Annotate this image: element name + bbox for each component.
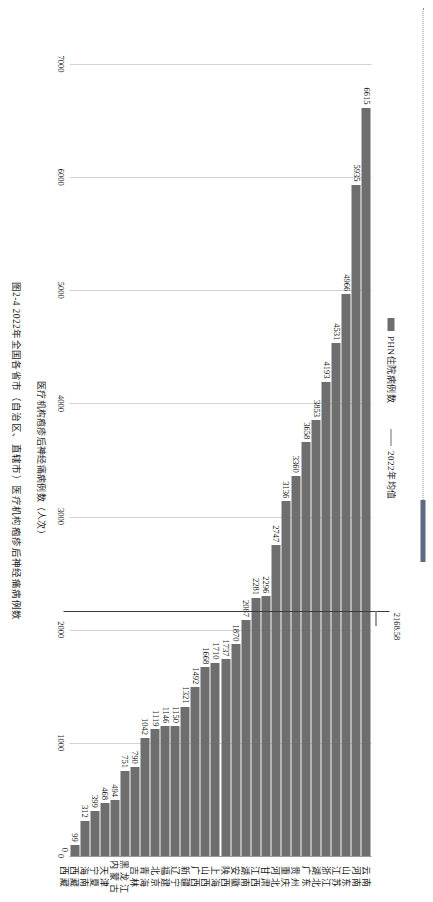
bar-row: 1119 [150, 64, 159, 856]
bar-value-label: 790 [129, 751, 139, 764]
bar [190, 687, 199, 856]
bar-row: 1668 [200, 64, 209, 856]
bar-value-label: 3360 [291, 456, 301, 473]
bar-row: 1870 [231, 64, 240, 856]
bar-row: 1150 [170, 64, 179, 856]
category-axis-labels: 云南河南山东江苏浙江湖北广东贵州重庆河北甘肃江西湖南安徽陕西上海山西广西新疆辽宁… [69, 858, 371, 898]
legend-item-mean: 2022年均值 [384, 429, 397, 500]
bar-value-label: 1668 [200, 647, 210, 664]
bar [321, 382, 330, 856]
value-tick-7000: 7000 [55, 56, 65, 73]
bar [241, 620, 250, 856]
legend-item-series: PHN住院病例数 [384, 318, 397, 403]
category-label: 西藏 [57, 858, 70, 898]
legend-line-swatch-icon [390, 429, 391, 446]
bar [100, 803, 109, 856]
bar-value-label: 1146 [160, 707, 170, 724]
bar-value-label: 1321 [180, 687, 190, 704]
bar-row: 3360 [291, 64, 300, 856]
dotted-rule [421, 8, 423, 508]
bar [90, 811, 99, 856]
gridline-0 [69, 856, 371, 857]
bar [331, 343, 340, 856]
bar [291, 476, 300, 856]
bar-value-label: 1737 [220, 639, 230, 656]
bar-row: 1321 [180, 64, 189, 856]
bar [110, 800, 119, 856]
bar [80, 821, 89, 856]
bar-value-label: 4193 [321, 362, 331, 379]
bar-value-label: 399 [89, 795, 99, 808]
mean-value-label: 2168.58 [391, 613, 401, 641]
bar [351, 185, 360, 857]
bar [281, 501, 290, 856]
bar [311, 420, 320, 856]
bar-row: 1042 [140, 64, 149, 856]
rule-cap-block [420, 500, 425, 562]
bar-value-label: 2281 [250, 578, 260, 595]
bar [221, 659, 230, 856]
bar [130, 767, 139, 856]
bar [200, 667, 209, 856]
bar [210, 663, 219, 856]
value-axis-title: 医疗机构疱疹后神经痛病例数（人次） [34, 64, 47, 856]
bar-row: 751 [120, 64, 129, 856]
bar-value-label: 312 [79, 805, 89, 818]
bar-row: 312 [80, 64, 89, 856]
value-tick-2000: 2000 [55, 621, 65, 638]
value-axis-ticks: 70006000500040003000200010000 [49, 64, 65, 856]
bar-row: 4531 [331, 64, 340, 856]
bar [170, 726, 179, 856]
bar [361, 108, 370, 856]
bar-row: 3136 [281, 64, 290, 856]
bar-row: 399 [90, 64, 99, 856]
bar-row: 6615 [361, 64, 370, 856]
legend-series-label: PHN住院病例数 [384, 336, 397, 403]
bar-row: 2087 [241, 64, 250, 856]
bar-value-label: 2747 [270, 525, 280, 542]
bar-row: 494 [110, 64, 119, 856]
bar-row: 1737 [221, 64, 230, 856]
bar-row: 99 [70, 64, 79, 856]
bar-row: 5935 [351, 64, 360, 856]
bar-row: 2281 [251, 64, 260, 856]
bar [251, 598, 260, 856]
bar-value-label: 1870 [230, 624, 240, 641]
bar-row: 4193 [321, 64, 330, 856]
figure-page: PHN住院病例数 2022年均值 66155935496645314193385… [0, 0, 433, 902]
bar-row: 2747 [271, 64, 280, 856]
bar-row: 1492 [190, 64, 199, 856]
bar-row: 1710 [210, 64, 219, 856]
bar-value-label: 1710 [210, 643, 220, 660]
bar-value-label: 2296 [260, 576, 270, 593]
bar-value-label: 3136 [280, 481, 290, 498]
bar-value-label: 751 [119, 755, 129, 768]
value-tick-3000: 3000 [55, 508, 65, 525]
bar-value-label: 5935 [351, 165, 361, 182]
callout-arm [375, 611, 376, 626]
bar [70, 845, 79, 856]
value-tick-4000: 4000 [55, 395, 65, 412]
chart-legend: PHN住院病例数 2022年均值 [384, 318, 397, 500]
bar-row: 2296 [261, 64, 270, 856]
legend-mean-label: 2022年均值 [384, 451, 397, 500]
legend-bar-swatch-icon [387, 318, 394, 331]
bar [261, 596, 270, 856]
bar [231, 644, 240, 856]
bar-value-label: 3853 [311, 400, 321, 417]
bar-value-label: 3658 [301, 422, 311, 439]
bar-row: 790 [130, 64, 139, 856]
bar-value-label: 99 [69, 833, 79, 842]
bar [120, 771, 129, 856]
bar [301, 442, 310, 856]
bar-row: 3658 [301, 64, 310, 856]
bar-value-label: 1150 [170, 706, 180, 723]
bar-value-label: 1042 [140, 718, 150, 735]
bar-value-label: 4966 [341, 274, 351, 291]
bar [341, 294, 350, 856]
bar-value-label: 1492 [190, 667, 200, 684]
bar-value-label: 1119 [150, 710, 160, 726]
bar-row: 1146 [160, 64, 169, 856]
bar-row: 3853 [311, 64, 320, 856]
callout-stem [376, 611, 389, 612]
